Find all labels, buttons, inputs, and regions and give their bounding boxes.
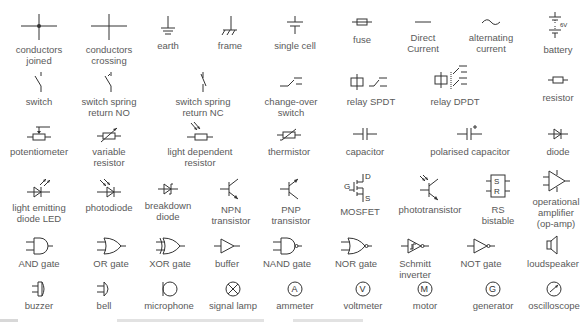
or-gate-icon (95, 236, 127, 256)
alternating-current-icon (480, 14, 502, 30)
symbol-label: OR gate (93, 258, 128, 269)
thermistor-icon (276, 124, 302, 144)
ammeter-letter: A (292, 284, 298, 294)
symbol-variable-resistor: variable resistor (76, 124, 142, 168)
motor-letter: M (421, 284, 429, 294)
symbol-label: diode (546, 146, 569, 157)
symbol-conductors-joined: conductors joined (0, 14, 78, 66)
symbol-label: light dependent resistor (168, 146, 233, 168)
symbol-resistor: resistor (530, 72, 586, 103)
symbol-earth: earth (140, 14, 196, 51)
symbol-label: MOSFET (340, 206, 380, 217)
symbol-label: bell (97, 300, 112, 311)
symbol-label: buffer (215, 258, 239, 269)
symbol-switch-spring-return-nc: switch spring return NC (158, 70, 248, 118)
rs-reset-label: R (494, 187, 500, 196)
symbol-label: conductors crossing (86, 44, 132, 66)
resistor-icon (547, 72, 569, 90)
loudspeaker-icon (543, 234, 563, 256)
symbol-generator: G generator (460, 280, 526, 311)
oscilloscope-icon (544, 280, 564, 298)
xor-gate-icon (154, 236, 186, 256)
conductors-joined-icon (19, 14, 59, 42)
symbol-label: single cell (274, 40, 316, 51)
symbol-label: buzzer (25, 300, 54, 311)
symbol-single-cell: single cell (262, 14, 328, 51)
symbol-label: conductors joined (16, 44, 62, 66)
potentiometer-icon (26, 124, 52, 144)
ammeter-icon: A (285, 280, 305, 298)
symbol-npn-transistor: NPN transistor (200, 176, 262, 226)
mosfet-icon: GDS (343, 170, 377, 204)
motor-icon: M (415, 280, 435, 298)
symbol-photodiode: photodiode (76, 176, 142, 213)
symbol-label: switch spring return NO (82, 96, 137, 118)
ldr-icon (186, 120, 214, 144)
change-over-switch-icon (278, 70, 304, 94)
symbol-pnp-transistor: PNP transistor (260, 176, 322, 226)
cropped-caption (0, 316, 586, 323)
earth-icon (158, 14, 178, 38)
polarised-capacitor-icon (456, 122, 484, 144)
symbol-buzzer: buzzer (0, 280, 78, 311)
pnp-transistor-icon (278, 176, 304, 202)
not-gate-icon (465, 236, 497, 256)
voltmeter-icon: V (353, 280, 373, 298)
led-icon (26, 176, 52, 200)
symbol-phototransistor: phototransistor (392, 174, 468, 215)
op-amp-icon (541, 168, 571, 194)
symbol-light-dependent-resistor: light dependent resistor (150, 120, 250, 168)
symbol-or-gate: OR gate (82, 236, 140, 269)
symbol-label: Direct Current (407, 32, 439, 54)
symbol-conductors-crossing: conductors crossing (70, 14, 148, 66)
nor-gate-icon (339, 236, 373, 256)
symbol-label: PNP transistor (271, 204, 310, 226)
symbol-label: capacitor (346, 146, 385, 157)
symbol-label: fuse (353, 34, 371, 45)
generator-letter: G (489, 284, 496, 294)
symbol-not-gate: NOT gate (448, 236, 514, 269)
symbol-label: switch (26, 96, 52, 107)
switch-spring-no-icon (99, 70, 119, 94)
symbol-label: earth (157, 40, 179, 51)
symbol-label: change-over switch (265, 96, 318, 118)
symbol-xor-gate: XOR gate (140, 236, 200, 269)
relay-dpdt-icon (433, 64, 477, 94)
symbol-label: loudspeaker (527, 258, 579, 269)
symbol-label: switch spring return NC (176, 96, 231, 118)
symbol-label: ammeter (276, 300, 313, 311)
symbol-label: motor (413, 300, 437, 311)
symbol-switch-spring-return-no: switch spring return NO (64, 70, 154, 118)
signal-lamp-icon (223, 280, 243, 298)
symbol-label: generator (473, 300, 514, 311)
fuse-icon (351, 14, 373, 32)
symbol-change-over-switch: change-over switch (254, 70, 328, 118)
symbol-signal-lamp: signal lamp (200, 280, 266, 311)
symbol-label: oscilloscope (528, 300, 580, 311)
symbol-relay-spdt: relay SPDT (336, 72, 406, 107)
symbol-label: signal lamp (209, 300, 257, 311)
symbol-potentiometer: potentiometer (0, 124, 78, 157)
relay-spdt-icon (349, 72, 393, 94)
battery-voltage: 6V (560, 22, 567, 28)
mosfet-drain-label: D (365, 172, 371, 181)
microphone-icon (159, 280, 179, 298)
battery-icon: 6V (543, 12, 573, 42)
symbol-label: relay SPDT (347, 96, 396, 107)
symbol-label: AND gate (18, 258, 59, 269)
symbol-relay-dpdt: relay DPDT (420, 64, 490, 107)
symbol-label: variable resistor (92, 146, 125, 168)
variable-resistor-icon (96, 124, 122, 144)
phototransistor-icon (416, 174, 444, 202)
symbol-label: potentiometer (10, 146, 68, 157)
buzzer-icon (29, 280, 49, 298)
single-cell-icon (285, 14, 305, 38)
symbol-label: relay DPDT (430, 96, 479, 107)
photodiode-icon (96, 176, 122, 200)
diode-icon (547, 124, 569, 144)
switch-icon (29, 70, 49, 94)
rs-set-label: S (494, 177, 499, 186)
bell-icon (94, 280, 114, 298)
symbol-fuse: fuse (334, 14, 390, 45)
symbol-microphone: microphone (136, 280, 202, 311)
